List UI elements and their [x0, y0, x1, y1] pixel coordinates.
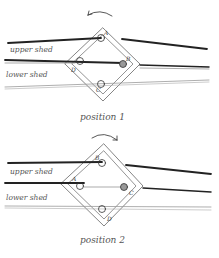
lower-shed-label: lower shed: [6, 193, 48, 202]
corner-label-left: A: [71, 175, 77, 182]
corner-label-left: D: [70, 66, 76, 73]
rotate-cw-arrow-icon: [92, 134, 117, 140]
position-1-diagram: [5, 11, 209, 101]
upper-shed-thread-top: [8, 38, 101, 43]
upper-shed-label: upper shed: [10, 45, 53, 54]
upper-shed-label: upper shed: [10, 167, 53, 176]
corner-label-bottom: D: [106, 215, 112, 222]
corner-label-right: B: [125, 55, 131, 62]
lower-shed-label: lower shed: [6, 70, 48, 79]
diamond-outer: [61, 144, 143, 226]
upper-shed-thread-top: [8, 162, 102, 163]
corner-label-bottom: C: [96, 86, 101, 93]
lower-shed-thread: [5, 206, 211, 207]
upper-shed-thread-mid: [5, 60, 123, 63]
lower-shed-thread: [5, 80, 209, 87]
position-2-diagram: [5, 134, 211, 226]
shed-diagram: A B C D B C D A: [0, 0, 219, 258]
corner-label-top: B: [94, 154, 100, 161]
corner-label-top: A: [103, 29, 109, 36]
caption-position-2: position 2: [80, 235, 125, 245]
corner-label-right: C: [129, 189, 134, 196]
caption-position-1: position 1: [80, 112, 125, 122]
